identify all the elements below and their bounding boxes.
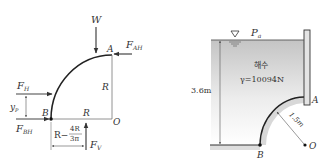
floor-band	[210, 145, 260, 150]
label-radius: 1.5m	[287, 111, 305, 129]
hinge-b	[49, 117, 53, 121]
free-body-diagram: W FAH A R R O B FH yP FBH R− 4R 3π FV	[9, 14, 143, 151]
tank-diagram: Pa 해수 γ=10094N 3.6m 1.5m A B O	[191, 27, 319, 160]
label-offset-numerator: 4R	[70, 125, 80, 133]
label-w: W	[91, 14, 102, 25]
label-yp: yP	[9, 102, 19, 113]
label-r-vertical: R	[101, 82, 109, 92]
label-point-o: O	[113, 117, 121, 127]
wall	[304, 30, 310, 105]
diagram-canvas: W FAH A R R O B FH yP FBH R− 4R 3π FV	[0, 0, 331, 166]
free-surface-triangle-icon	[231, 31, 239, 37]
label-r-horizontal: R	[82, 108, 90, 118]
label-point-b: B	[41, 108, 49, 118]
label-specific-weight: γ=10094N	[240, 75, 284, 84]
label-fbh: FBH	[15, 123, 33, 135]
label-depth: 3.6m	[191, 86, 212, 95]
label-offset-denominator: 3π	[70, 135, 79, 143]
seawater-region	[211, 40, 304, 145]
label-fluid-name: 해수	[254, 60, 268, 70]
label-point-a: A	[106, 44, 114, 54]
label-point-a-right: A	[311, 95, 319, 105]
label-point-o-right: O	[309, 141, 317, 151]
label-offset-prefix: R−	[54, 130, 68, 140]
hinge-b-right	[258, 143, 262, 147]
label-fah: FAH	[125, 39, 143, 51]
label-pa: Pa	[250, 27, 262, 39]
label-point-b-right: B	[256, 150, 264, 160]
label-fh: FH	[16, 80, 30, 92]
label-fv: FV	[89, 139, 102, 151]
center-o-right	[303, 143, 306, 146]
